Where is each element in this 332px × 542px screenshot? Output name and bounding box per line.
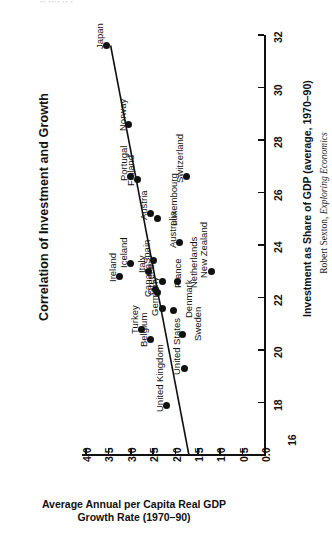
investment-tick (258, 402, 264, 404)
data-point-label: Iceland (118, 238, 129, 269)
investment-tick (258, 139, 264, 141)
data-point-label: New Zealand (198, 222, 209, 278)
data-point-label: Sweden (192, 307, 203, 341)
data-point-label: Belgium (138, 312, 149, 346)
growth-tick-label: 1.5 (193, 447, 205, 462)
data-point (170, 307, 177, 314)
investment-tick-label: 26 (272, 189, 284, 201)
data-point-label: United States (171, 318, 182, 375)
investment-tick-label: 18 (272, 399, 284, 411)
investment-tick (258, 87, 264, 89)
investment-tick-label: 22 (272, 294, 284, 306)
data-point-label: Switzerland (174, 134, 185, 183)
data-point-label: Norway (117, 99, 128, 131)
growth-axis-label: Average Annual per Capita Real GDPGrowth… (26, 498, 242, 524)
investment-tick (258, 192, 264, 194)
growth-tick-label: 4.0 (81, 447, 93, 462)
scatter-plot: 1820222426283032 4.03.53.02.52.01.51.00.… (0, 0, 332, 542)
growth-tick-label: 2.5 (148, 447, 160, 462)
investment-tick-label: 20 (272, 346, 284, 358)
growth-tick-label: 0.5 (238, 447, 250, 462)
investment-tick-label: 30 (272, 84, 284, 96)
growth-tick-label: 3.5 (103, 447, 115, 462)
data-point-label: Germany (149, 277, 160, 316)
data-point-label: Australia (167, 211, 178, 248)
growth-tick-label: 3.0 (126, 447, 138, 462)
growth-axis-label-line: Growth Rate (1970–90) (26, 511, 242, 524)
investment-tick (258, 349, 264, 351)
investment-tick-label: 28 (272, 136, 284, 148)
origin-tick-label: 16 (286, 434, 298, 446)
data-point-label: Finland (125, 155, 136, 186)
growth-axis-label-line: Average Annual per Capita Real GDP (26, 498, 242, 511)
investment-tick (258, 244, 264, 246)
investment-tick-label: 32 (272, 31, 284, 43)
data-point (154, 215, 161, 222)
investment-tick (258, 297, 264, 299)
investment-tick-label: 24 (272, 241, 284, 253)
data-point-label: Austria (138, 190, 149, 220)
investment-axis-label: Investment as Share of GDP (average, 197… (301, 87, 313, 317)
data-point-label: United Kingdom (154, 345, 165, 413)
data-point-label: Japan (94, 23, 105, 49)
data-point-label: Ireland (107, 252, 118, 281)
investment-axis-line (264, 35, 266, 456)
growth-tick-label: 2.0 (171, 447, 183, 462)
growth-tick-label: 0.0 (260, 447, 272, 462)
trend-line (0, 0, 332, 542)
growth-tick-label: 1.0 (215, 447, 227, 462)
investment-tick (258, 34, 264, 36)
